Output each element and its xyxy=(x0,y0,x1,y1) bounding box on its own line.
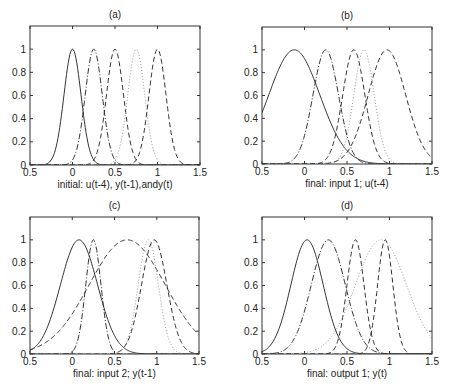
membership-curve-mf3 xyxy=(262,240,432,354)
y-tick-label: 0.4 xyxy=(244,303,258,314)
x-tick-label: 0.5 xyxy=(108,356,122,367)
y-tick-label: 0.4 xyxy=(12,303,26,314)
y-tick-label: 0.6 xyxy=(244,280,258,291)
membership-curve-mf1 xyxy=(262,240,432,354)
x-tick-label: 1 xyxy=(155,167,161,178)
x-tick-label: 0 xyxy=(302,166,308,177)
x-tick-label: 1.5 xyxy=(192,356,206,367)
y-tick-label: 1 xyxy=(252,234,258,245)
x-axis-label: initial: u(t-4), y(t-1),andy(t) xyxy=(57,179,172,190)
y-tick-label: 0.8 xyxy=(12,257,26,268)
y-tick-label: 0 xyxy=(20,160,26,171)
x-axis-label: final: input 1; u(t-4) xyxy=(305,178,388,189)
membership-curve-mf4 xyxy=(262,240,432,354)
membership-curve-mf4 xyxy=(262,50,432,164)
panel-title: (a) xyxy=(109,9,121,20)
y-tick-label: 0 xyxy=(252,349,258,360)
membership-curve-mf5 xyxy=(262,50,432,164)
curves xyxy=(262,240,432,354)
membership-curve-mf3 xyxy=(262,50,432,164)
y-tick-label: 0.2 xyxy=(244,326,258,337)
y-tick-label: 0.6 xyxy=(12,280,26,291)
curves xyxy=(30,49,200,165)
x-tick-label: 0.5 xyxy=(340,356,354,367)
y-tick-label: 0.6 xyxy=(12,90,26,101)
panel-title: (d) xyxy=(341,200,353,211)
membership-curve-mf2 xyxy=(30,240,199,354)
curves xyxy=(30,240,199,354)
y-tick-label: 0.2 xyxy=(244,136,258,147)
y-tick-label: 0.2 xyxy=(12,136,26,147)
x-tick-label: 1 xyxy=(154,356,160,367)
y-tick-label: 0.8 xyxy=(244,257,258,268)
x-axis-label: final: input 2; y(t-1) xyxy=(73,368,156,379)
curves xyxy=(262,50,432,164)
membership-function-figure: (a)0.500.511.500.20.40.60.81initial: u(t… xyxy=(0,0,451,392)
y-tick-label: 0.2 xyxy=(12,326,26,337)
x-tick-label: 0 xyxy=(70,167,76,178)
y-tick-label: 0.8 xyxy=(12,67,26,78)
x-tick-label: 1 xyxy=(387,356,393,367)
panel-title: (b) xyxy=(341,10,353,21)
y-tick-label: 1 xyxy=(20,234,26,245)
x-tick-label: 0 xyxy=(69,356,75,367)
x-tick-label: 1.5 xyxy=(425,356,439,367)
x-axis-label: final: output 1; y(t) xyxy=(307,368,387,379)
y-tick-label: 0.8 xyxy=(244,67,258,78)
x-tick-label: 0 xyxy=(302,356,308,367)
x-tick-label: 0.5 xyxy=(108,167,122,178)
axes-frame xyxy=(30,217,199,354)
subplot-c: (c)0.500.511.500.20.40.60.81final: input… xyxy=(12,200,206,379)
x-tick-label: 1.5 xyxy=(193,167,207,178)
membership-curve-mf4 xyxy=(30,240,199,354)
x-tick-label: 1.5 xyxy=(425,166,439,177)
membership-curve-mf3 xyxy=(30,240,199,350)
y-tick-label: 1 xyxy=(20,44,26,55)
y-tick-label: 1 xyxy=(252,44,258,55)
subplot-b: (b)0.500.511.500.20.40.60.81final: input… xyxy=(244,10,439,189)
y-tick-label: 0 xyxy=(20,349,26,360)
subplot-d: (d)0.500.511.500.20.40.60.81final: outpu… xyxy=(244,200,439,379)
membership-curve-mf5 xyxy=(30,240,199,354)
panel-title: (c) xyxy=(109,200,121,211)
subplot-a: (a)0.500.511.500.20.40.60.81initial: u(t… xyxy=(12,9,207,190)
y-tick-label: 0.6 xyxy=(244,90,258,101)
axes-frame xyxy=(30,26,200,165)
y-tick-label: 0.4 xyxy=(12,113,26,124)
membership-curve-mf2 xyxy=(262,50,432,164)
x-tick-label: 0.5 xyxy=(340,166,354,177)
axes-frame xyxy=(262,27,432,164)
membership-curve-mf1 xyxy=(30,240,199,354)
membership-curve-mf1 xyxy=(262,50,432,164)
y-tick-label: 0 xyxy=(252,159,258,170)
x-tick-label: 1 xyxy=(387,166,393,177)
membership-curve-mf5 xyxy=(262,240,432,354)
y-tick-label: 0.4 xyxy=(244,113,258,124)
membership-curve-mf2 xyxy=(262,240,432,354)
